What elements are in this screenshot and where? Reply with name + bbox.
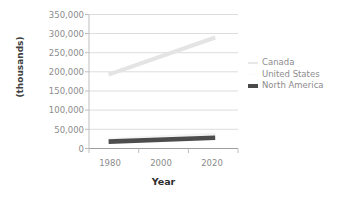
x-tick-label-1980: 1980: [99, 159, 121, 168]
line-chart: 350,000 300,000 250,000 200,000 150,000 …: [0, 0, 339, 199]
legend-item-canada[interactable]: Canada: [248, 57, 339, 69]
x-tick-label-2020: 2020: [201, 159, 223, 168]
legend-label-north-america: North America: [262, 80, 324, 92]
legend-swatch-north-america-icon: [248, 84, 258, 88]
legend-label-united-states: United States: [262, 69, 320, 81]
legend-label-canada: Canada: [262, 57, 294, 69]
chart-legend: Canada United States North America: [248, 57, 339, 92]
legend-item-north-america[interactable]: North America: [248, 80, 339, 92]
legend-item-united-states[interactable]: United States: [248, 69, 339, 81]
x-tick-label-2000: 2000: [150, 159, 172, 168]
legend-swatch-united-states-icon: [248, 73, 258, 75]
y-axis-title: (thousands): [15, 27, 25, 107]
legend-swatch-canada-icon: [248, 62, 258, 64]
x-axis-tick-labels: 1980 2000 2020: [0, 0, 339, 199]
x-axis-title: Year: [89, 176, 238, 187]
